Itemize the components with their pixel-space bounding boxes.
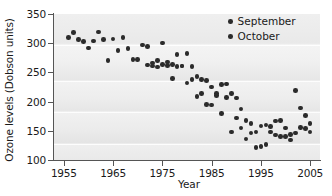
data-point [229,91,234,96]
y-tick-mark [48,131,53,132]
legend-item: September [228,14,296,29]
data-point [111,37,116,42]
y-tick-label-wrap: 350 [0,9,46,19]
data-point [219,82,224,87]
data-point [249,131,254,136]
data-point [259,124,264,129]
data-point [303,113,308,118]
data-point [204,78,209,83]
data-point [293,88,298,93]
data-point [195,74,200,79]
x-tick-mark [64,161,65,166]
data-point [71,30,76,35]
data-point [224,82,229,87]
legend-marker-icon [228,19,233,24]
data-point [259,144,264,149]
data-point [234,116,239,121]
data-point [244,118,249,123]
y-tick-label-wrap: 200 [0,97,46,107]
y-tick-label: 100 [2,155,46,165]
x-axis-line [53,160,321,161]
x-tick-mark [212,161,213,166]
data-point [268,124,273,129]
y-tick-label: 250 [2,67,46,77]
data-point [288,138,293,143]
y-tick-mark [48,72,53,73]
legend-label: October [238,29,280,44]
y-tick-label: 200 [2,97,46,107]
data-point [116,48,121,53]
y-tick-mark [48,160,53,161]
data-point [229,130,234,135]
data-point [165,63,170,68]
data-point [283,126,288,131]
y-tick-mark [48,43,53,44]
data-point [101,37,106,42]
data-point [106,58,111,63]
data-point [268,130,273,135]
data-point [170,62,175,67]
y-axis-line [53,13,54,161]
data-point [175,64,180,69]
data-point [185,51,190,56]
data-point [131,57,136,62]
data-point [204,102,209,107]
data-point [278,118,283,123]
data-point [199,91,204,96]
data-point [170,76,175,81]
x-tick-mark [113,161,114,166]
background-band [54,144,320,145]
data-point [140,43,145,48]
data-point [135,57,140,62]
data-point [96,30,101,35]
data-point [155,58,160,63]
data-point [249,121,254,126]
data-point [145,44,150,49]
y-tick-mark [48,102,53,103]
data-point [175,52,180,57]
legend-label: September [238,14,296,29]
data-point [298,106,303,111]
data-point [239,126,244,131]
data-point [150,61,155,66]
data-point [308,121,313,126]
data-point [190,64,195,69]
data-point [214,93,219,98]
data-point [126,46,131,51]
data-point [244,137,249,142]
data-point [254,145,259,150]
y-tick-mark [48,14,53,15]
data-point [81,39,86,44]
data-point [254,130,259,135]
data-point [209,103,214,108]
data-point [185,81,190,86]
data-point [239,107,244,112]
y-tick-label-wrap: 150 [0,126,46,136]
data-point [288,132,293,137]
data-point [273,133,278,138]
y-tick-label-wrap: 300 [0,38,46,48]
data-point [160,62,165,67]
x-tick-mark [261,161,262,166]
data-point [298,125,303,130]
background-band [54,112,320,113]
x-tick-mark [162,161,163,166]
data-point [199,77,204,82]
data-point [190,77,195,82]
data-point [219,111,224,116]
y-tick-label: 150 [2,126,46,136]
background-band [54,45,320,46]
data-point [195,94,200,99]
data-point [66,35,71,40]
data-point [264,142,269,147]
y-tick-label-wrap: 250 [0,67,46,77]
data-point [86,46,91,51]
chart-legend: SeptemberOctober [228,14,296,44]
data-point [273,119,278,124]
data-point [278,134,283,139]
data-point [308,130,313,135]
legend-item: October [228,29,296,44]
ozone-scatter-chart: Ozone levels (Dobson units) 100150200250… [0,0,332,196]
data-point [91,39,96,44]
y-tick-label: 350 [2,9,46,19]
